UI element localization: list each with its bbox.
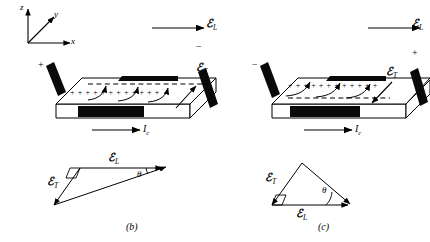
- panel-b-theta-label: θ: [137, 170, 141, 179]
- panel-b-EL-symbol: ℰ: [206, 17, 213, 30]
- axis-label-x: x: [71, 37, 75, 46]
- panel-b-triangle-EL-subscript: L: [115, 157, 119, 166]
- axis-label-y: y: [54, 10, 58, 19]
- panel-b-triangle-ET-subscript: T: [54, 181, 58, 190]
- panel-b-Ic-label: Ic: [143, 124, 149, 137]
- panel-b-front-charge-row: + + + + + + + + + + + +: [70, 89, 160, 97]
- coordinate-axes: [28, 9, 70, 43]
- panel-b-triangle-EL-label: ℰL: [108, 152, 119, 166]
- panel-c-ET-label: ℰT: [386, 66, 397, 80]
- panel-c-triangle-EL-symbol: ℰ: [296, 207, 303, 220]
- panel-b-Ic-subscript: c: [146, 129, 149, 136]
- physics-figure: z y x ℰL ℰT Ic + + + + + + + + + + + + +…: [0, 0, 430, 242]
- panel-b-ET-symbol: ℰ: [196, 61, 203, 74]
- panel-c-Ic-subscript: c: [358, 129, 361, 136]
- panel-b-ET-subscript: T: [203, 67, 207, 76]
- panel-c-ET-symbol: ℰ: [386, 65, 393, 78]
- panel-c-left-sign: −: [252, 60, 258, 70]
- panel-b-left-sign: +: [38, 60, 44, 70]
- panel-b-caption: (b): [126, 222, 138, 232]
- panel-c-right-sign: +: [412, 48, 418, 58]
- panel-c-vector-triangle: [272, 163, 350, 205]
- figure-canvas: [0, 0, 430, 242]
- panel-b-EL-subscript: L: [213, 23, 217, 32]
- panel-b-triangle-EL-symbol: ℰ: [108, 151, 115, 164]
- panel-c-triangle-ET-symbol: ℰ: [265, 171, 272, 184]
- panel-c-caption: (c): [318, 222, 329, 232]
- panel-b-right-sign: −: [196, 42, 202, 52]
- panel-c-EL-symbol: ℰ: [412, 17, 419, 30]
- panel-c-Ic-label: Ic: [355, 124, 361, 137]
- panel-c-triangle-EL-label: ℰL: [296, 208, 307, 222]
- panel-c-triangle-EL-subscript: L: [303, 213, 307, 222]
- panel-b-triangle-ET-symbol: ℰ: [47, 175, 54, 188]
- panel-c-theta-label: θ: [322, 186, 326, 195]
- panel-b-vector-triangle: [54, 167, 166, 205]
- panel-c-triangle-ET-subscript: T: [272, 177, 276, 186]
- panel-b-EL-label: ℰL: [206, 18, 217, 32]
- panel-c-EL-subscript: L: [419, 23, 423, 32]
- panel-c-top-charge-row: + + + + + + + + + + + +: [288, 82, 378, 90]
- axis-label-z: z: [20, 3, 24, 12]
- panel-c-ET-subscript: T: [393, 71, 397, 80]
- panel-c-triangle-ET-label: ℰT: [265, 172, 276, 186]
- panel-c-slab: [260, 28, 430, 130]
- panel-b-triangle-ET-label: ℰT: [47, 176, 58, 190]
- panel-b-ET-label: ℰT: [196, 62, 207, 76]
- panel-c-EL-label: ℰL: [412, 18, 423, 32]
